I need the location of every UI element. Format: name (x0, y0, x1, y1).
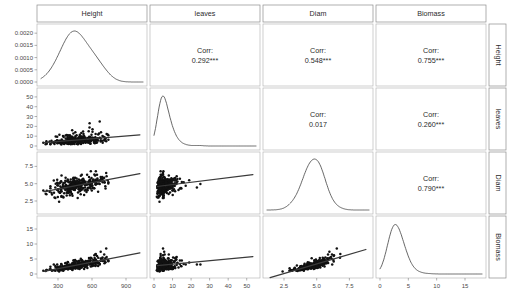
x-tick-label: 2.5 (280, 283, 289, 289)
data-point (99, 251, 102, 254)
x-tick-label: 10 (169, 283, 176, 289)
data-point (162, 170, 165, 173)
panel-height-biomass: Corr:0.755*** (376, 24, 486, 86)
data-point (62, 184, 65, 187)
data-point (54, 183, 57, 186)
x-tick-label: 20 (188, 283, 195, 289)
data-point (93, 187, 96, 190)
data-point (303, 269, 306, 272)
data-point (75, 181, 78, 184)
panel-leaves-leaves (150, 88, 260, 150)
data-point (59, 185, 62, 188)
data-point (103, 181, 106, 184)
data-point (98, 183, 101, 186)
data-point (97, 190, 100, 193)
data-point (288, 267, 291, 270)
column-header-label-2: Diam (310, 9, 327, 18)
x-tick-label: 7.5 (345, 283, 354, 289)
data-point (107, 139, 110, 142)
row-label-leaves: leaves (489, 88, 506, 150)
panel-height-height (37, 24, 147, 86)
x-tick-label: 600 (87, 283, 98, 289)
data-point (53, 179, 56, 182)
x-tick-label: 5 (407, 283, 411, 289)
data-point (57, 184, 60, 187)
data-point (171, 259, 174, 262)
data-point (72, 178, 75, 181)
data-point (91, 263, 94, 266)
data-point (64, 176, 67, 179)
data-point (101, 140, 104, 143)
panel-frame (37, 216, 147, 278)
data-point (49, 143, 52, 146)
data-point (167, 257, 170, 260)
data-point (106, 133, 109, 136)
data-point (175, 175, 178, 178)
x-tick-label: 40 (225, 283, 232, 289)
data-point (162, 193, 165, 196)
corr-label-leaves-diam: Corr: (310, 110, 326, 119)
panel-biomass-diam (263, 216, 373, 278)
data-point (71, 135, 74, 138)
panel-diam-height (37, 152, 147, 214)
data-point (76, 267, 79, 270)
data-point (66, 263, 69, 266)
panel-diam-leaves (150, 152, 260, 214)
y-tick-label: 50 (26, 94, 33, 100)
data-point (84, 136, 87, 139)
data-point (95, 170, 98, 173)
data-point (169, 187, 172, 190)
data-point (60, 190, 63, 193)
data-point (94, 174, 97, 177)
data-point (57, 196, 60, 199)
data-point (196, 263, 199, 266)
data-point (179, 178, 182, 181)
panel-frame (376, 88, 486, 150)
y-tick-label: 10 (26, 133, 33, 139)
data-point (171, 187, 174, 190)
x-axis-diam: 2.55.07.5 (280, 278, 354, 289)
data-point (90, 185, 93, 188)
data-point (162, 182, 165, 185)
column-header-label-0: Height (82, 9, 103, 18)
data-point (159, 170, 162, 173)
column-header-diam: Diam (263, 5, 373, 22)
row-label-text-2: Diam (494, 175, 503, 192)
data-point (76, 197, 79, 200)
x-axis-biomass: 051015 (378, 278, 469, 289)
data-point (88, 176, 91, 179)
data-point (92, 259, 95, 262)
data-point (87, 130, 90, 133)
data-point (83, 194, 86, 197)
data-point (78, 135, 81, 138)
data-point (163, 176, 166, 179)
y-tick-label: 0.0015 (15, 42, 34, 48)
panel-diam-diam (263, 152, 373, 214)
data-point (160, 257, 163, 260)
data-point (91, 130, 94, 133)
data-point (180, 187, 183, 190)
y-axis-diam: 2.55.07.5 (25, 163, 37, 204)
data-point (81, 178, 84, 181)
data-point (98, 120, 101, 123)
data-point (91, 189, 94, 192)
data-point (71, 129, 74, 132)
row-label-diam: Diam (489, 152, 506, 214)
data-point (317, 259, 320, 262)
data-point (53, 196, 56, 199)
data-point (163, 251, 166, 254)
column-header-label-1: leaves (195, 9, 216, 18)
data-point (168, 253, 171, 256)
data-point (81, 135, 84, 138)
data-point (75, 142, 78, 145)
data-point (64, 189, 67, 192)
data-point (86, 188, 89, 191)
corr-value-diam-biomass: 0.790*** (418, 184, 445, 193)
data-point (314, 260, 317, 263)
data-point (54, 135, 57, 138)
y-tick-label: 10 (26, 241, 33, 247)
row-label-height: Height (489, 24, 506, 86)
corr-label-height-diam: Corr: (310, 46, 326, 55)
panel-frame (263, 24, 373, 86)
data-point (171, 189, 174, 192)
